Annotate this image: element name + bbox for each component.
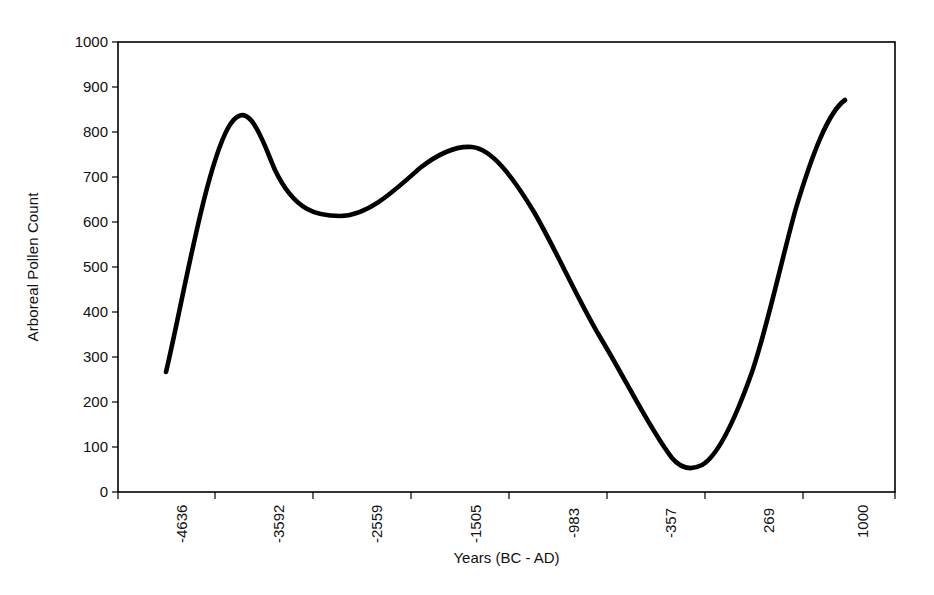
pollen-count-line-series [166, 100, 845, 468]
pollen-count-chart-figure: Arboreal Pollen Count Years (BC - AD) 0 … [0, 0, 934, 595]
x-axis-ticks [118, 492, 895, 499]
y-axis-ticks [112, 42, 118, 492]
plot-area [0, 0, 934, 595]
